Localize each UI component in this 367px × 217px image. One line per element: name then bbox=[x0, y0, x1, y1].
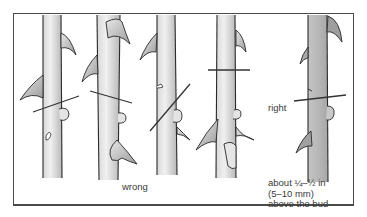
bud-icon bbox=[326, 106, 334, 120]
thorn-icon bbox=[236, 127, 254, 140]
bud-icon bbox=[59, 108, 69, 120]
stem-example-2 bbox=[82, 15, 137, 180]
stem-example-3 bbox=[140, 15, 190, 175]
label-right: right bbox=[268, 103, 286, 114]
stem-example-5-correct bbox=[294, 15, 346, 182]
label-cut-distance-note: about ¼–½ in (5–10 mm) above the bud bbox=[268, 178, 328, 210]
thorn-icon bbox=[140, 33, 157, 60]
thorn-icon bbox=[177, 127, 190, 140]
bud-icon bbox=[233, 110, 241, 120]
thorn-icon bbox=[110, 140, 137, 164]
note-line-1: about ¼–½ in bbox=[268, 178, 328, 189]
thorn-icon bbox=[196, 119, 218, 150]
stem-example-1 bbox=[20, 15, 79, 178]
thorn-icon bbox=[82, 55, 98, 82]
label-wrong: wrong bbox=[122, 182, 148, 193]
stem-example-4 bbox=[196, 15, 254, 178]
bud-icon bbox=[118, 113, 126, 123]
thorn-icon bbox=[61, 33, 76, 55]
bud-icon bbox=[173, 110, 182, 123]
thorn-icon bbox=[327, 16, 342, 42]
thorn-icon bbox=[300, 47, 308, 64]
note-line-3: above the bud bbox=[268, 199, 328, 210]
thorn-icon bbox=[20, 75, 43, 100]
thorn-icon bbox=[236, 30, 246, 52]
